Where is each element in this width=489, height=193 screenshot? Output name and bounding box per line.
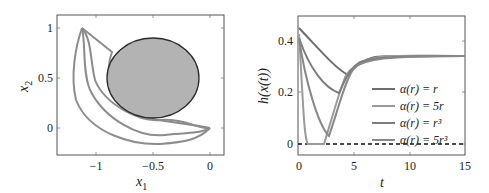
right-ytick-label: 0.2: [278, 85, 293, 99]
right-xtick-label: 0: [296, 159, 302, 173]
left-ytick-label: 0.5: [38, 71, 53, 85]
legend-label: α(r) = r: [400, 82, 438, 96]
right-ytick-label: 0: [287, 137, 293, 151]
left-plot: −1 −0.5 0 1 0.5 0 x1 x2: [16, 15, 224, 192]
left-xlabel: x1: [135, 174, 147, 192]
right-xtick-label: 10: [404, 159, 416, 173]
right-ylabel: h(x(t)): [256, 68, 272, 104]
right-xtick-label: 5: [351, 159, 357, 173]
right-xlabel: t: [380, 175, 385, 190]
figure: −1 −0.5 0 1 0.5 0 x1 x2 α(r) =: [0, 0, 489, 193]
left-ylabel: x2: [16, 81, 34, 93]
right-xtick-label: 15: [459, 159, 471, 173]
left-xtick-label: −1: [90, 159, 103, 173]
left-ytick-label: 1: [47, 21, 53, 35]
left-ytick-label: 0: [47, 121, 53, 135]
left-xtick-label: −0.5: [142, 159, 164, 173]
right-ytick-label: 0.4: [278, 34, 293, 48]
legend-label: α(r) = 5r: [400, 99, 444, 113]
right-plot: α(r) = r α(r) = 5r α(r) = r³ α(r) = 5r³ …: [256, 16, 471, 190]
left-xtick-label: 0: [207, 159, 213, 173]
legend-label: α(r) = 5r³: [400, 133, 448, 147]
obstacle-ellipse: [107, 38, 199, 118]
legend-label: α(r) = r³: [400, 116, 442, 130]
